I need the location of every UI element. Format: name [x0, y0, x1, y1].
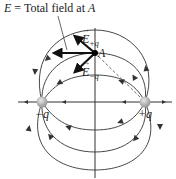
e-symbol: E — [4, 2, 11, 14]
e-minus-q-symbol: E — [82, 66, 89, 78]
label-e-plus-q: E+q — [82, 33, 99, 48]
dashed-line-to-pos — [95, 53, 145, 102]
total-field-point: A — [88, 1, 95, 15]
pos-charge — [140, 97, 151, 108]
label-neg-charge: −q — [35, 108, 49, 120]
total-field-text: = Total field at — [11, 1, 88, 15]
label-pos-charge: +q — [138, 108, 152, 120]
total-field-label: E = Total field at A — [4, 2, 95, 14]
field-line-lower-inner — [42, 102, 145, 130]
e-minus-q-sub: −q — [89, 72, 98, 81]
label-point-a: A — [98, 47, 105, 59]
e-plus-q-sub: +q — [89, 39, 98, 48]
field-line-lower-outer — [38, 102, 151, 170]
e-plus-q-symbol: E — [82, 33, 89, 45]
neg-charge — [37, 97, 48, 108]
label-e-minus-q: E−q — [82, 66, 99, 81]
field-line-lower-mid — [42, 102, 146, 152]
label-pointer — [58, 16, 67, 50]
